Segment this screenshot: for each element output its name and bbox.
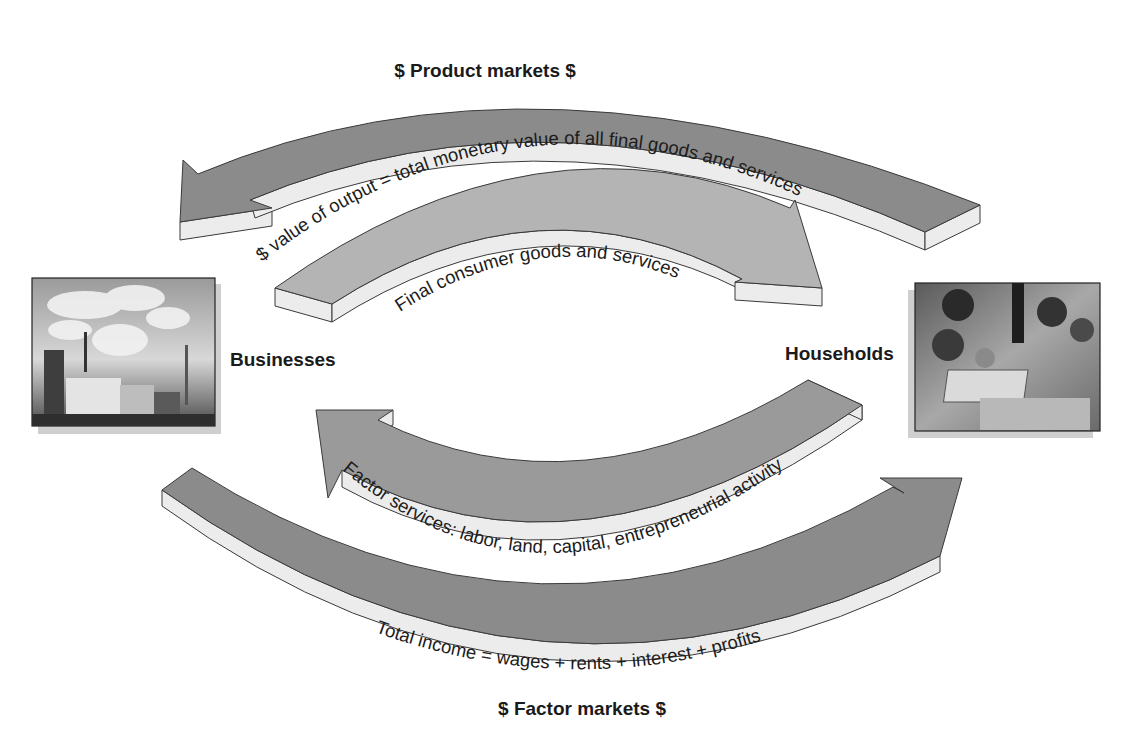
factor-markets-title: $ Factor markets $ bbox=[498, 698, 666, 719]
factor-services-arrow bbox=[316, 380, 862, 540]
households-label: Households bbox=[785, 343, 894, 364]
product-markets-title: $ Product markets $ bbox=[394, 60, 576, 81]
businesses-label: Businesses bbox=[230, 349, 336, 370]
circular-flow-diagram: $ Product markets $ $ value of output = … bbox=[0, 0, 1133, 743]
